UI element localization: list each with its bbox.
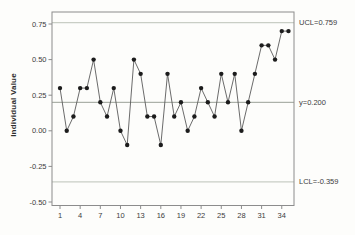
y-tick-label: -0.50 <box>29 198 46 207</box>
x-tick-label: 31 <box>257 211 265 220</box>
data-point <box>58 86 62 90</box>
data-point <box>273 57 277 61</box>
data-point <box>185 129 189 133</box>
data-point <box>71 114 75 118</box>
y-axis-title: Individual Value <box>9 40 19 170</box>
individuals-control-chart: 0.750.500.250.00-0.25-0.5014710131619222… <box>0 0 355 235</box>
y-tick-label: 0.50 <box>32 55 47 64</box>
ucl-label: UCL=0.759 <box>299 18 337 27</box>
x-tick-label: 22 <box>197 211 205 220</box>
x-tick-label: 16 <box>157 211 165 220</box>
data-point <box>286 29 290 33</box>
data-point <box>145 114 149 118</box>
data-point <box>179 100 183 104</box>
data-point <box>266 43 270 47</box>
data-point <box>239 129 243 133</box>
data-point <box>125 143 129 147</box>
data-point <box>132 57 136 61</box>
data-point <box>65 129 69 133</box>
data-point <box>219 72 223 76</box>
data-point <box>172 114 176 118</box>
control-chart-figure: Individual Value 0.750.500.250.00-0.25-0… <box>0 0 355 235</box>
data-point <box>259 43 263 47</box>
data-point <box>112 86 116 90</box>
data-point <box>85 86 89 90</box>
data-point <box>105 114 109 118</box>
x-tick-label: 13 <box>136 211 144 220</box>
x-tick-label: 7 <box>98 211 102 220</box>
y-tick-label: -0.25 <box>29 162 46 171</box>
y-tick-label: 0.75 <box>32 20 47 29</box>
data-point <box>138 72 142 76</box>
y-tick-label: 0.25 <box>32 91 47 100</box>
data-point <box>91 57 95 61</box>
y-tick-label: 0.00 <box>32 126 47 135</box>
lcl-label: LCL=-0.359 <box>299 177 338 186</box>
center-line-label: y=0.200 <box>299 98 326 107</box>
x-tick-label: 1 <box>58 211 62 220</box>
data-point <box>253 72 257 76</box>
data-point <box>199 86 203 90</box>
data-point <box>152 114 156 118</box>
data-point <box>192 114 196 118</box>
x-tick-label: 34 <box>278 211 286 220</box>
x-tick-label: 19 <box>177 211 185 220</box>
x-tick-label: 25 <box>217 211 225 220</box>
data-point <box>118 129 122 133</box>
data-point <box>280 29 284 33</box>
data-point <box>78 86 82 90</box>
data-point <box>212 114 216 118</box>
x-tick-label: 4 <box>78 211 82 220</box>
x-tick-label: 10 <box>116 211 124 220</box>
data-point <box>159 143 163 147</box>
data-point <box>246 100 250 104</box>
data-point <box>233 72 237 76</box>
x-tick-label: 28 <box>237 211 245 220</box>
data-point <box>165 72 169 76</box>
data-point <box>206 100 210 104</box>
series-line <box>60 31 288 145</box>
data-point <box>226 100 230 104</box>
data-point <box>98 100 102 104</box>
